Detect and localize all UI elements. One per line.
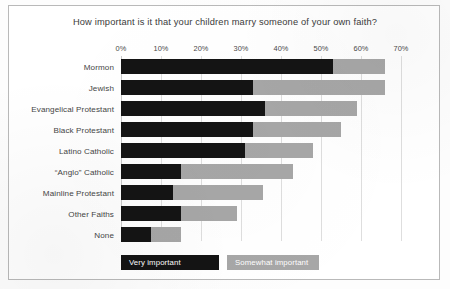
chart-frame: How important is it that your children m…	[8, 5, 440, 280]
chart-title: How important is it that your children m…	[9, 17, 441, 27]
bar-row: Jewish	[121, 77, 401, 98]
x-tick-label: 70%	[393, 44, 408, 53]
scanned-page: How important is it that your children m…	[0, 0, 450, 289]
bar-row: Evangelical Protestant	[121, 98, 401, 119]
x-tick-label: 50%	[313, 44, 328, 53]
bar-segment-very-important	[121, 227, 151, 242]
category-label: “Anglo” Catholic	[55, 167, 114, 176]
bar-row: Black Protestant	[121, 119, 401, 140]
bar-segment-somewhat-important	[253, 80, 385, 95]
category-label: Mormon	[84, 62, 114, 71]
x-tick-label: 60%	[353, 44, 368, 53]
legend-item-somewhat-important: Somewhat important	[227, 255, 319, 270]
bar-row: None	[121, 224, 401, 245]
bar-segment-somewhat-important	[181, 164, 293, 179]
bar-row: “Anglo” Catholic	[121, 161, 401, 182]
bar-segment-somewhat-important	[253, 122, 341, 137]
bar-segment-very-important	[121, 185, 173, 200]
bar-segment-somewhat-important	[333, 59, 385, 74]
category-label: None	[94, 230, 114, 239]
bar-segment-very-important	[121, 101, 265, 116]
category-label: Other Faiths	[68, 209, 114, 218]
bar-segment-very-important	[121, 80, 253, 95]
x-tick-label: 10%	[153, 44, 168, 53]
bar-segment-very-important	[121, 59, 333, 74]
gridline-70	[401, 56, 402, 241]
x-tick-label: 30%	[233, 44, 248, 53]
plot-area: MormonJewishEvangelical ProtestantBlack …	[121, 56, 401, 241]
bar-segment-somewhat-important	[151, 227, 181, 242]
category-label: Latino Catholic	[59, 146, 114, 155]
x-axis-tick-labels: 0%10%20%30%40%50%60%70%	[121, 44, 401, 56]
category-label: Mainline Protestant	[43, 188, 114, 197]
x-tick-label: 40%	[273, 44, 288, 53]
bar-row: Mainline Protestant	[121, 182, 401, 203]
bar-row: Other Faiths	[121, 203, 401, 224]
legend-item-very-important: Very important	[121, 255, 219, 270]
category-label: Evangelical Protestant	[31, 104, 114, 113]
bar-segment-very-important	[121, 164, 181, 179]
bar-segment-somewhat-important	[265, 101, 357, 116]
category-label: Black Protestant	[53, 125, 114, 134]
bar-segment-very-important	[121, 143, 245, 158]
x-tick-label: 20%	[193, 44, 208, 53]
x-tick-label: 0%	[116, 44, 127, 53]
bar-segment-very-important	[121, 122, 253, 137]
bar-segment-somewhat-important	[245, 143, 313, 158]
bar-row: Mormon	[121, 56, 401, 77]
bar-segment-somewhat-important	[181, 206, 237, 221]
bar-segment-very-important	[121, 206, 181, 221]
category-label: Jewish	[89, 83, 114, 92]
bar-segment-somewhat-important	[173, 185, 263, 200]
bar-row: Latino Catholic	[121, 140, 401, 161]
